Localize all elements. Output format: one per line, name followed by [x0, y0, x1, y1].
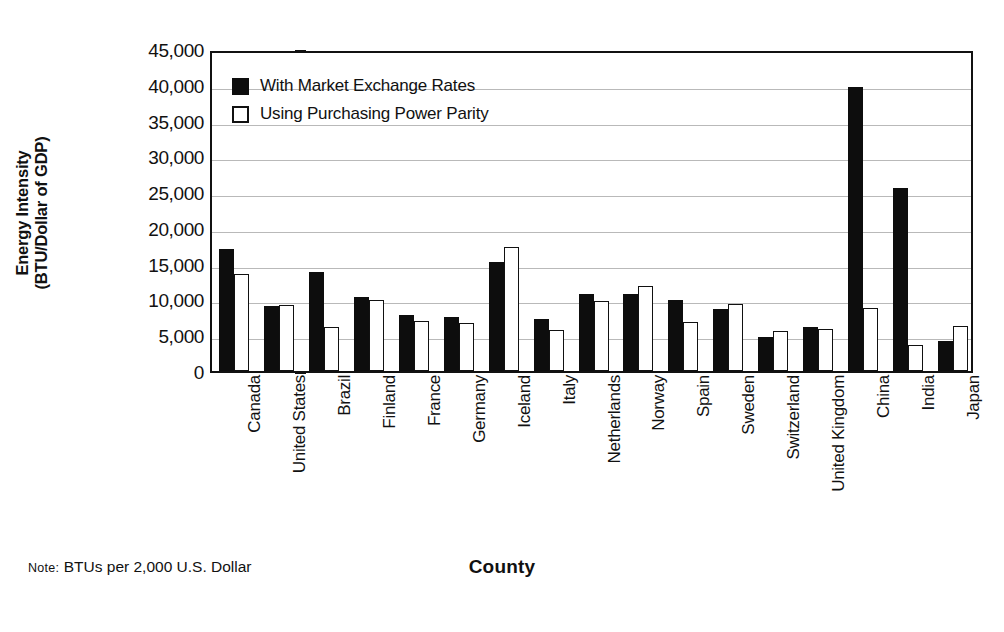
- x-axis-tick-label: Canada: [239, 375, 259, 433]
- bar: [414, 321, 429, 371]
- legend-swatch-light-icon: [232, 106, 249, 123]
- footnote-keyword: Note:: [28, 561, 59, 575]
- bar: [534, 319, 549, 371]
- x-axis-tick-label: Spain: [688, 375, 708, 417]
- x-axis-tick-label: Brazil: [329, 375, 349, 416]
- bar: [683, 322, 698, 371]
- bar: [953, 326, 968, 371]
- bar: [579, 294, 594, 371]
- x-axis-tick-label: Germany: [464, 375, 484, 443]
- bar: [324, 327, 339, 371]
- bar-group: [579, 53, 609, 371]
- bar: [219, 249, 234, 371]
- bar: [234, 274, 249, 371]
- bar: [728, 304, 743, 371]
- y-axis-tick-label: 45,000: [96, 40, 204, 62]
- x-axis-tick-label: United Kingdom: [823, 375, 843, 492]
- y-axis-tick-label: 0: [96, 362, 204, 384]
- x-axis-tick-label: Japan: [958, 375, 978, 420]
- x-axis-tick-label: China: [868, 375, 888, 418]
- bar: [713, 309, 728, 371]
- bar-group: [668, 53, 698, 371]
- y-axis-tick-label: 35,000: [96, 112, 204, 134]
- chart-footnote: Note: BTUs per 2,000 U.S. Dollar: [28, 558, 252, 576]
- bar: [818, 329, 833, 371]
- bar: [803, 327, 818, 371]
- bar: [489, 262, 504, 371]
- plot-area: With Market Exchange Rates Using Purchas…: [210, 51, 973, 373]
- x-axis-tick-label: France: [419, 375, 439, 426]
- legend-swatch-dark-icon: [232, 78, 249, 95]
- bar: [638, 286, 653, 371]
- bar: [279, 305, 294, 371]
- bar: [504, 247, 519, 372]
- y-axis-tick-labels: 05,00010,00015,00020,00025,00030,00035,0…: [96, 0, 204, 632]
- x-axis-tick-labels: CanadaUnited StatesBrazilFinlandFranceGe…: [210, 375, 973, 550]
- bar-group: [938, 53, 968, 371]
- y-axis-tick-label: 40,000: [96, 76, 204, 98]
- bar: [773, 331, 788, 371]
- y-axis-tick-label: 15,000: [96, 255, 204, 277]
- bar-group: [623, 53, 653, 371]
- bar: [848, 87, 863, 371]
- bar: [354, 297, 369, 371]
- legend-label: With Market Exchange Rates: [260, 76, 475, 96]
- bar: [758, 337, 773, 371]
- bar: [623, 294, 638, 371]
- bar: [668, 300, 683, 371]
- bar-group: [713, 53, 743, 371]
- legend: With Market Exchange Rates Using Purchas…: [232, 75, 489, 131]
- bar: [893, 188, 908, 371]
- bar: [863, 308, 878, 371]
- bar: [594, 301, 609, 371]
- bar: [459, 323, 474, 371]
- y-axis-tick-label: 10,000: [96, 290, 204, 312]
- bar-group: [758, 53, 788, 371]
- x-axis-tick-label: Switzerland: [778, 375, 798, 460]
- y-axis-tick-label: 20,000: [96, 219, 204, 241]
- bar: [549, 330, 564, 372]
- legend-item-purchasing-power-parity: Using Purchasing Power Parity: [232, 103, 489, 125]
- x-axis-tick-label: Netherlands: [599, 375, 619, 463]
- x-axis-tick-label: Italy: [554, 375, 574, 405]
- bar: [444, 317, 459, 371]
- bar: [399, 315, 414, 371]
- x-axis-tick-label: United States: [284, 375, 304, 473]
- bar: [938, 341, 953, 371]
- y-axis-tick-label: 5,000: [96, 326, 204, 348]
- bar: [908, 345, 923, 371]
- bar-group: [489, 53, 519, 371]
- legend-label: Using Purchasing Power Parity: [260, 104, 489, 124]
- y-axis-tick-label: 30,000: [96, 147, 204, 169]
- legend-item-market-exchange-rates: With Market Exchange Rates: [232, 75, 489, 97]
- bar-group: [534, 53, 564, 371]
- x-axis-tick-label: Sweden: [733, 375, 753, 435]
- bar-group: [803, 53, 833, 371]
- footnote-text: BTUs per 2,000 U.S. Dollar: [64, 558, 252, 575]
- x-axis-tick-label: India: [913, 375, 933, 410]
- bar-group: [893, 53, 923, 371]
- x-axis-tick-label: Norway: [643, 375, 663, 431]
- x-axis-tick-label: Finland: [374, 375, 394, 429]
- bar-group: [848, 53, 878, 371]
- y-axis-title: Energy Intensity (BTU/Dollar of GDP): [2, 48, 62, 378]
- energy-intensity-bar-chart: Energy Intensity (BTU/Dollar of GDP) 05,…: [0, 0, 1004, 632]
- x-axis-tick-label: Iceland: [509, 375, 529, 428]
- y-axis-tick-label: 25,000: [96, 183, 204, 205]
- bar: [369, 300, 384, 371]
- bar: [309, 272, 324, 371]
- bar: [264, 306, 279, 371]
